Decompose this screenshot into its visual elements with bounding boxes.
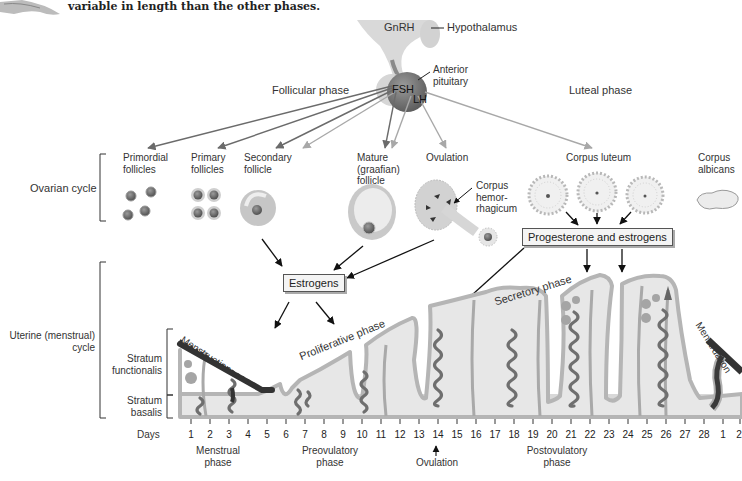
lh-arrows [303,92,592,148]
day-12: 12 [394,429,405,440]
ovarian-cycle-label: Ovarian cycle [30,183,97,195]
day-13: 13 [413,429,424,440]
stratum-basalis-label: Stratum basalis [100,395,162,418]
day-27: 27 [679,429,690,440]
menstrual-phase-label: Menstrual phase [196,445,240,468]
gnrh-label: GnRH [384,22,415,34]
day-9: 9 [340,429,346,440]
uterus-thumbnail-icon [0,0,60,15]
uterine-cycle-label: Uterine (menstrual) cycle [0,330,95,353]
day-22: 22 [584,429,595,440]
day-14: 14 [432,429,443,440]
fsh-label: FSH [392,84,414,96]
day-17: 17 [489,429,500,440]
day-23: 23 [603,429,614,440]
day-20: 20 [546,429,557,440]
postovulatory-phase-label: Postovulatory phase [527,445,588,468]
day-1: 1 [188,429,194,440]
day-5: 5 [264,429,270,440]
primordial-follicles-graphic [123,187,156,220]
day-next-2: 2 [736,429,742,440]
day-7: 7 [302,429,308,440]
day-8: 8 [321,429,327,440]
functionalis-bracket [167,329,173,395]
day-4: 4 [245,429,251,440]
primary-follicles-label: Primary follicles [191,152,225,175]
corpus-luteum-graphics [529,173,663,214]
day-16: 16 [470,429,481,440]
day-2: 2 [207,429,213,440]
hypothalamus-label: Hypothalamus [447,22,517,34]
primary-follicles-graphic [191,188,221,220]
luteal-phase-label: Luteal phase [569,85,632,97]
day-ticks [191,419,740,424]
day-25: 25 [641,429,652,440]
ovulation-stage-label: Ovulation [426,152,468,164]
day-18: 18 [508,429,519,440]
pituitary-pointer [418,72,430,80]
secondary-follicle-graphic [240,190,276,226]
ovarian-bracket [100,154,106,221]
lh-label: LH [413,94,427,106]
primordial-follicles-label: Primordial follicles [123,152,168,175]
stratum-functionalis-label: Stratum functionalis [100,353,162,376]
day-next-1: 1 [720,429,726,440]
hemorrhagicum-pointer [454,188,472,203]
anterior-pituitary-label: Anterior pituitary [433,64,468,87]
preovulatory-phase-label: Preovulatory phase [302,445,358,468]
day-6: 6 [283,429,289,440]
basalis-bracket [167,395,173,418]
secondary-follicle-label: Secondary follicle [244,152,292,175]
corpus-luteum-label: Corpus luteum [566,152,631,164]
menstrual-cycle-diagram: variable in length than the other phases… [0,0,742,481]
corpus-albicans-label: Corpus albicans [698,152,735,175]
mature-follicle-graphic [348,184,396,240]
day-19: 19 [527,429,538,440]
day-26: 26 [660,429,671,440]
day-21: 21 [565,429,576,440]
ovulation-day-label: Ovulation [416,457,458,469]
progesterone-estrogens-box: Progesterone and estrogens [522,228,673,246]
corpus-hemorrhagicum-label: Corpus hemor- rhagicum [476,180,517,215]
day-10: 10 [356,429,367,440]
corpus-albicans-graphic [697,190,738,209]
follicular-phase-label: Follicular phase [272,85,349,97]
day-11: 11 [376,429,386,440]
day-24: 24 [622,429,633,440]
mature-follicle-label: Mature (graafian) follicle [357,152,400,187]
estrogens-box: Estrogens [283,274,345,292]
day-28: 28 [698,429,709,440]
days-label: Days [137,429,160,441]
day-15: 15 [451,429,462,440]
day-3: 3 [226,429,232,440]
